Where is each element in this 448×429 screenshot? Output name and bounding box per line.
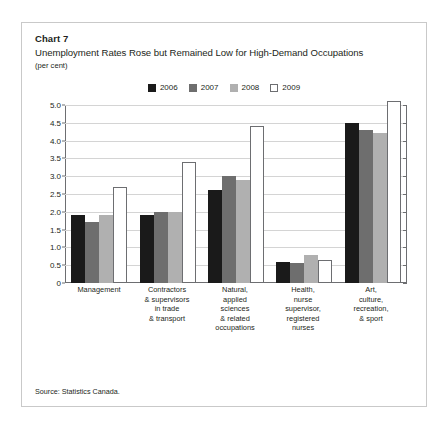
legend-label: 2008 [242,84,260,92]
bar-2009[interactable] [387,101,401,283]
legend-swatch-icon [148,84,156,92]
category-label: Management [65,285,133,333]
bar-2007[interactable] [222,176,236,283]
bar-2007[interactable] [290,263,304,283]
chart-frame: Chart 7 Unemployment Rates Rose but Rema… [21,22,427,407]
plot-area [65,105,407,283]
source-note: Source: Statistics Canada. [35,387,120,396]
y-tick-mark-right [403,105,407,106]
bar-2008[interactable] [168,212,182,283]
category-label: Art,culture,recreation,& sport [337,285,405,333]
y-tick-label: 4.5 [50,118,61,127]
y-axis-labels: 00.51.01.52.02.53.03.54.04.55.0 [35,105,65,283]
bar-2007[interactable] [359,130,373,283]
legend-item-2007[interactable]: 2007 [189,84,219,92]
y-tick-label: 3.5 [50,154,61,163]
bar-2006[interactable] [71,215,85,283]
category-label-line: culture, [338,295,404,305]
y-tick-mark-right [403,265,407,266]
bar-group [339,105,407,283]
bar-2008[interactable] [236,180,250,283]
y-tick-label: 2.0 [50,207,61,216]
y-tick-label: 0 [57,279,61,288]
category-label-line: Natural, [202,285,268,295]
category-label-line: Contractors [134,285,200,295]
category-label-line: applied [202,295,268,305]
legend-item-2006[interactable]: 2006 [148,84,178,92]
bar-2008[interactable] [99,215,113,283]
category-label: Health,nursesupervisor,registerednurses [269,285,337,333]
bar-2006[interactable] [208,190,222,283]
category-label-line: recreation, [338,304,404,314]
y-tick-mark-right [403,283,407,284]
category-label-line: Health, [270,285,336,295]
y-tick-label: 2.5 [50,190,61,199]
legend-item-2008[interactable]: 2008 [230,84,260,92]
category-label-line: & sport [338,314,404,324]
chart-units-label: (per cent) [35,61,68,70]
bar-2009[interactable] [250,126,264,283]
bar-2008[interactable] [304,255,318,283]
bar-2009[interactable] [113,187,127,283]
category-label-line: Management [66,285,132,295]
category-label-line: occupations [202,323,268,333]
category-label-line: supervisor, [270,304,336,314]
category-label-line: & transport [134,314,200,324]
category-label-line: sciences [202,304,268,314]
y-tick-label: 0.5 [50,261,61,270]
bar-2008[interactable] [373,133,387,283]
category-label: Natural,appliedsciences& relatedoccupati… [201,285,269,333]
bar-2009[interactable] [318,260,332,283]
chart-page: Chart 7 Unemployment Rates Rose but Rema… [0,0,448,429]
category-label-line: registered [270,314,336,324]
legend-label: 2006 [160,84,178,92]
category-label-line: nurses [270,323,336,333]
y-tick-mark-right [403,247,407,248]
legend-swatch-icon [270,84,278,92]
plot-wrapper: 00.51.01.52.02.53.03.54.04.55.0 [35,105,415,283]
y-tick-label: 4.0 [50,136,61,145]
y-tick-mark-right [403,194,407,195]
category-label-line: & supervisors [134,295,200,305]
category-label: Contractors& supervisorsin trade& transp… [133,285,201,333]
category-label-line: in trade [134,304,200,314]
x-axis-category-labels: ManagementContractors& supervisorsin tra… [65,285,405,333]
y-tick-mark-right [403,123,407,124]
y-tick-mark-right [403,158,407,159]
bar-2006[interactable] [345,123,359,283]
y-tick-label: 5.0 [50,101,61,110]
bar-2007[interactable] [154,212,168,283]
y-tick-mark-right [403,212,407,213]
y-tick-mark-right [403,176,407,177]
bar-2009[interactable] [182,162,196,283]
gridline [65,105,407,106]
category-label-line: nurse [270,295,336,305]
legend-label: 2009 [282,84,300,92]
category-label-line: & related [202,314,268,324]
y-tick-label: 1.5 [50,225,61,234]
chart-legend: 2006200720082009 [22,84,426,92]
bar-2006[interactable] [276,262,290,283]
y-tick-mark-right [403,141,407,142]
legend-swatch-icon [230,84,238,92]
bar-group [202,105,270,283]
y-tick-mark-right [403,230,407,231]
legend-item-2009[interactable]: 2009 [270,84,300,92]
y-tick-label: 3.0 [50,172,61,181]
bar-2006[interactable] [140,215,154,283]
chart-title: Unemployment Rates Rose but Remained Low… [35,47,363,58]
y-tick-label: 1.0 [50,243,61,252]
chart-number-label: Chart 7 [35,33,68,44]
bar-2007[interactable] [85,222,99,283]
legend-swatch-icon [189,84,197,92]
category-label-line: Art, [338,285,404,295]
bar-groups [65,105,407,283]
legend-label: 2007 [201,84,219,92]
